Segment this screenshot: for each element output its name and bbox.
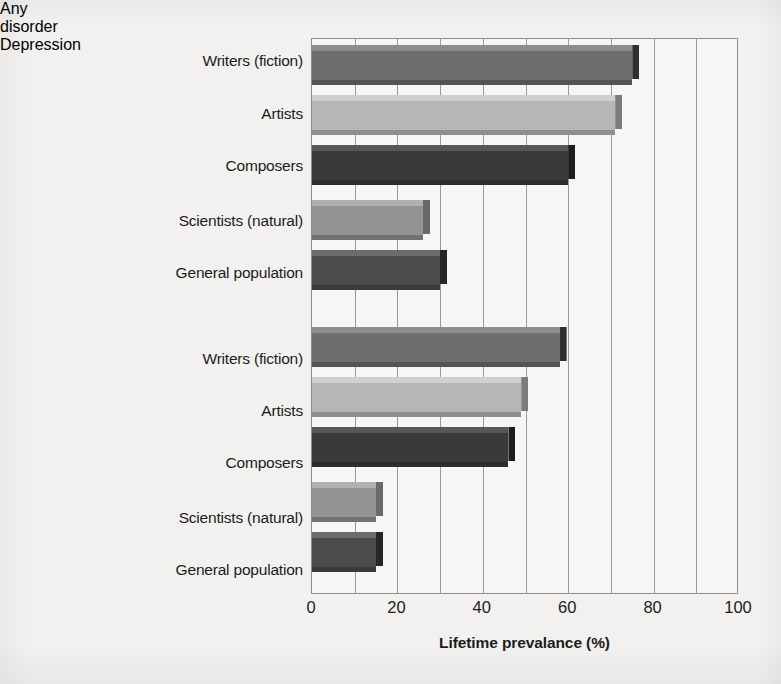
x-tick-60: 60 [558, 598, 576, 617]
bar-front-face [312, 433, 508, 467]
bar-right-face-fill [568, 145, 575, 179]
bar-right-face-fill [560, 327, 567, 361]
bar-any-scientists [312, 200, 430, 240]
bar-dep-writers [312, 327, 567, 367]
bar-front-face [312, 488, 376, 522]
category-labels: Writers (fiction)ArtistsComposersScienti… [0, 0, 303, 684]
bar-front-face [312, 256, 440, 290]
bar-bottom-shadow [312, 285, 440, 290]
bar-right-face-fill [632, 45, 639, 79]
bar-right-face-fill [376, 482, 383, 516]
bar-bottom-shadow [312, 180, 568, 185]
bar-bottom-shadow [312, 362, 560, 367]
category-label: Composers [3, 157, 303, 175]
bar-bottom-shadow [312, 517, 376, 522]
x-tick-100: 100 [724, 598, 752, 617]
bar-right-face-fill [615, 95, 622, 129]
category-label: Composers [3, 454, 303, 472]
category-label: General population [3, 561, 303, 579]
bar-right-face [423, 200, 430, 234]
bar-right-face-fill [376, 532, 383, 566]
bar-any-general [312, 250, 447, 290]
x-tick-0: 0 [306, 598, 315, 617]
x-axis-title: Lifetime prevalance (%) [311, 634, 738, 652]
bar-dep-general [312, 532, 383, 572]
bar-any-composers [312, 145, 575, 185]
x-tick-80: 80 [643, 598, 661, 617]
bar-front-face [312, 101, 615, 135]
bar-bottom-shadow [312, 235, 423, 240]
bar-any-artists [312, 95, 622, 135]
bar-bottom-shadow [312, 80, 632, 85]
bar-any-writers [312, 45, 639, 85]
bar-bottom-shadow [312, 567, 376, 572]
bar-front-face [312, 383, 521, 417]
bar-bottom-shadow [312, 462, 508, 467]
bar-right-face [568, 145, 575, 179]
bar-dep-artists [312, 377, 528, 417]
gridline-80 [654, 39, 655, 593]
gridline-90 [696, 39, 697, 593]
bar-bottom-shadow [312, 412, 521, 417]
chart-figure: Any disorder Depression Writers (fiction… [0, 0, 781, 684]
category-label: Scientists (natural) [3, 509, 303, 527]
bar-right-face-fill [508, 427, 515, 461]
plot-area [311, 38, 738, 594]
x-tick-40: 40 [473, 598, 491, 617]
bar-right-face-fill [521, 377, 528, 411]
bar-front-face [312, 51, 632, 85]
category-label: Scientists (natural) [3, 212, 303, 230]
bar-dep-scientists [312, 482, 383, 522]
x-axis-tick-labels: 020406080100 [311, 598, 738, 624]
bar-right-face-fill [423, 200, 430, 234]
category-label: Artists [3, 402, 303, 420]
bar-dep-composers [312, 427, 515, 467]
bar-right-face-fill [440, 250, 447, 284]
bar-bottom-shadow [312, 130, 615, 135]
category-label: Artists [3, 105, 303, 123]
bar-front-face [312, 151, 568, 185]
category-label: Writers (fiction) [3, 52, 303, 70]
bar-front-face [312, 333, 560, 367]
bar-right-face [521, 377, 528, 411]
bar-right-face [632, 45, 639, 79]
bar-right-face [376, 482, 383, 516]
bar-front-face [312, 206, 423, 240]
bar-right-face [615, 95, 622, 129]
bar-front-face [312, 538, 376, 572]
category-label: General population [3, 264, 303, 282]
category-label: Writers (fiction) [3, 350, 303, 368]
bar-right-face [508, 427, 515, 461]
bar-right-face [376, 532, 383, 566]
bar-right-face [440, 250, 447, 284]
x-tick-20: 20 [387, 598, 405, 617]
bar-right-face [560, 327, 567, 361]
